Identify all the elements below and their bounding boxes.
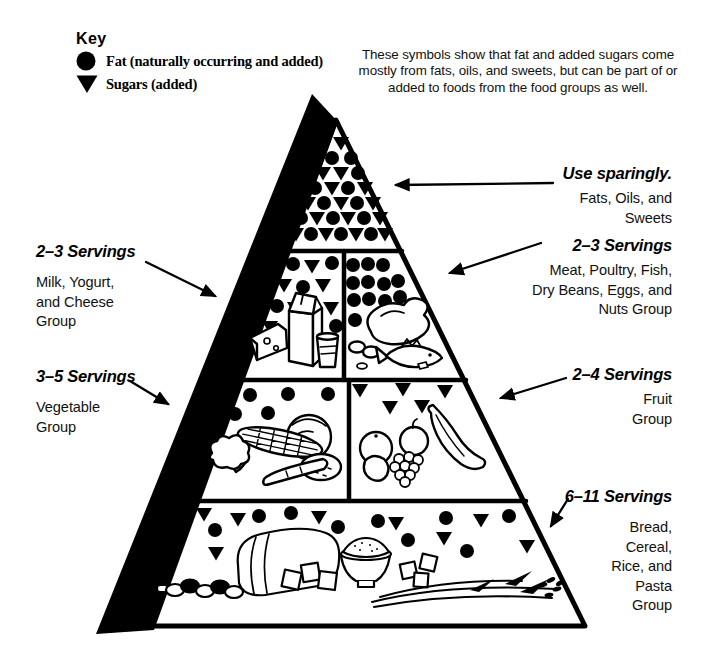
callout-fats-oils-sweets: Use sparingly. Fats, Oils, and Sweets (563, 164, 672, 228)
arrow-milk-group (146, 262, 215, 296)
fat-symbol (317, 196, 331, 210)
intro-note: These symbols show that fat and added su… (346, 47, 690, 96)
fat-symbol (348, 313, 362, 327)
fat-symbol (325, 151, 339, 165)
servings-label: 6–11 Servings (565, 487, 672, 506)
fat-symbol (281, 387, 295, 401)
fat-symbol (252, 509, 266, 523)
fat-symbol (362, 292, 376, 306)
cracker (282, 570, 302, 590)
cracker (301, 563, 320, 582)
callout-bread-group: 6–11 Servings Bread, Cereal, Rice, and P… (565, 487, 672, 616)
fat-symbol (329, 319, 343, 333)
group-label: Milk, Yogurt, and Cheese Group (36, 273, 135, 332)
grape (400, 477, 410, 487)
meat-scrap (357, 363, 367, 369)
callout-meat-group: 2–3 Servings Meat, Poultry, Fish, Dry Be… (532, 236, 672, 320)
fat-symbol (304, 227, 318, 241)
milk-carton-front (289, 311, 313, 366)
fish-eye (428, 353, 432, 357)
fat-symbol (377, 277, 391, 291)
fat-symbol (391, 274, 405, 288)
fat-symbol (371, 514, 385, 528)
rice-dot (354, 545, 356, 547)
arrow-use-sparingly (396, 183, 553, 185)
fat-symbol (361, 275, 375, 289)
fat-circle-icon (76, 51, 98, 71)
fat-symbol (346, 258, 360, 272)
cracker (419, 554, 437, 572)
fat-symbol (351, 166, 365, 180)
rice-dot (359, 549, 361, 551)
callout-milk-group: 2–3 Servings Milk, Yogurt, and Cheese Gr… (36, 242, 135, 332)
arrow-fruit-group (501, 378, 566, 398)
fat-symbol (284, 506, 298, 520)
fat-symbol (326, 211, 340, 225)
servings-label: Use sparingly. (563, 164, 672, 183)
arrow-meat-group (450, 243, 541, 273)
orange-stem-dot (374, 434, 378, 438)
servings-label: 3–5 Servings (36, 367, 135, 386)
fat-symbol (334, 227, 348, 241)
servings-label: 2–3 Servings (532, 236, 672, 255)
fat-symbol (325, 256, 339, 270)
group-label: Fats, Oils, and Sweets (563, 189, 672, 228)
fat-symbol (341, 181, 355, 195)
fat-symbol (243, 388, 257, 402)
fat-symbol (364, 227, 378, 241)
fat-symbol (439, 511, 453, 525)
fat-symbol (308, 181, 322, 195)
glass-rim (317, 333, 338, 339)
ginger-root (210, 435, 250, 469)
callout-fruit-group: 2–4 Servings Fruit Group (573, 365, 672, 429)
cracker (318, 571, 337, 590)
group-label: Vegetable Group (36, 398, 135, 437)
key-item-sugars: Sugars (added) (76, 74, 323, 94)
fat-symbol (376, 258, 390, 272)
fat-symbol (357, 211, 371, 225)
apple (400, 427, 428, 455)
rice-dot (369, 544, 371, 546)
strawberry (364, 456, 389, 481)
group-label: Bread, Cereal, Rice, and Pasta Group (565, 518, 672, 616)
servings-label: 2–3 Servings (36, 242, 135, 261)
rice-dot (371, 550, 373, 552)
cracker (414, 573, 429, 588)
arrow-vegetable-group (130, 381, 168, 404)
key-item-sugars-label: Sugars (added) (106, 76, 197, 93)
fat-symbol (270, 299, 284, 313)
key-item-fat-label: Fat (naturally occurring and added) (106, 53, 323, 70)
fat-symbol (331, 520, 345, 534)
fat-symbol (460, 544, 474, 558)
fat-symbol (502, 509, 516, 523)
fat-symbol (286, 257, 300, 271)
fat-symbol (350, 196, 364, 210)
food-guide-pyramid-figure: Key Fat (naturally occurring and added) … (0, 0, 705, 663)
sugar-triangle-icon (76, 74, 98, 94)
fat-symbol (208, 523, 222, 537)
servings-label: 2–4 Servings (573, 365, 672, 384)
fat-symbol (296, 280, 310, 294)
group-label: Meat, Poultry, Fish, Dry Beans, Eggs, an… (532, 261, 672, 320)
key-legend: Key Fat (naturally occurring and added) … (76, 30, 323, 94)
fat-symbol (401, 533, 415, 547)
key-item-fat: Fat (naturally occurring and added) (76, 51, 323, 71)
fat-symbol (347, 293, 361, 307)
fat-symbol (361, 257, 375, 271)
fat-symbol (294, 211, 308, 225)
fat-symbol (346, 276, 360, 290)
fat-symbol (321, 387, 335, 401)
key-title: Key (76, 30, 323, 48)
meat-scrap (418, 362, 428, 369)
rice-dot (361, 542, 363, 544)
rice-dot (376, 548, 378, 550)
callout-vegetable-group: 3–5 Servings Vegetable Group (36, 367, 135, 437)
fat-symbol (228, 407, 242, 421)
fat-symbol (344, 151, 358, 165)
fat-symbol (261, 406, 275, 420)
group-label: Fruit Group (573, 390, 672, 429)
rice-bowl-foot (358, 581, 374, 587)
